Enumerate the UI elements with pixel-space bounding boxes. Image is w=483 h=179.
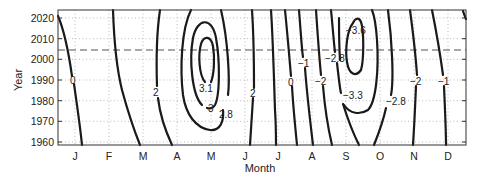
x-tick-label: A [173, 150, 180, 162]
contour-label: −2 [315, 76, 327, 87]
y-tick-label: 1980 [31, 95, 55, 107]
contour-label: −3.3 [343, 90, 363, 101]
y-tick-label: 2010 [31, 33, 55, 45]
contour-label: 3 [208, 103, 214, 114]
contour-label: −1 [438, 76, 450, 87]
contour-label: −3.6 [346, 25, 366, 36]
contour-label: 0 [288, 77, 294, 88]
x-tick-label: J [242, 150, 247, 162]
x-tick-label: F [106, 150, 112, 162]
contour-chart: 0 2 3.1 3 2.8 2 0 −1 −2 −2.8 −3.6 −3.3 −… [0, 0, 483, 179]
y-tick-label: 2020 [31, 12, 55, 24]
contour-label: −2.8 [325, 53, 345, 64]
contour-label: −2.8 [386, 96, 406, 107]
x-tick-label: J [275, 150, 280, 162]
x-tick-labels: J F M A M J J A S O N D [72, 150, 452, 162]
y-tick-label: 1990 [31, 74, 55, 86]
contour-label: 0 [70, 75, 76, 86]
contour-label: 3.1 [199, 83, 213, 94]
x-tick-label: O [376, 150, 384, 162]
y-tick-labels: 2020 2010 2000 1990 1980 1970 1960 [31, 12, 55, 148]
x-tick-label: M [207, 150, 216, 162]
contour-label: −2 [410, 76, 422, 87]
y-tick-label: 1960 [31, 136, 55, 148]
contour-label: 2 [153, 87, 159, 98]
y-axis-title: Year [12, 69, 24, 92]
contour-lines [58, 10, 466, 145]
contour-label: 2 [250, 88, 256, 99]
contour-label: −1 [298, 58, 310, 69]
x-tick-label: D [444, 150, 452, 162]
x-tick-label: S [342, 150, 349, 162]
x-tick-label: J [72, 150, 77, 162]
x-tick-label: A [308, 150, 315, 162]
contour-label: 2.8 [219, 109, 233, 120]
y-tick-label: 1970 [31, 115, 55, 127]
x-axis-title: Month [245, 162, 276, 174]
y-tick-label: 2000 [31, 53, 55, 65]
x-tick-label: N [410, 150, 418, 162]
x-tick-label: M [139, 150, 148, 162]
